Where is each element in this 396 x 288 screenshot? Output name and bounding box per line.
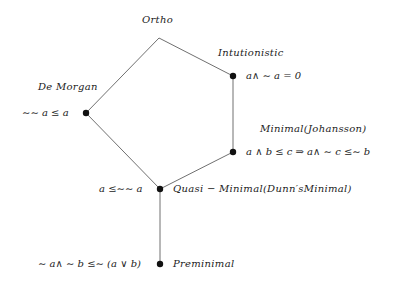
node-quasi bbox=[157, 186, 163, 192]
label-minimal: Minimal(Johansson) bbox=[260, 123, 367, 135]
label-intuitionistic: Intutionistic bbox=[218, 47, 284, 59]
edge-demorgan-quasi bbox=[86, 113, 160, 189]
node-preminimal bbox=[157, 261, 163, 267]
formula-minimal: a ∧ b ≤ c ⇒ a∧ ∼ c ≤∼ b bbox=[246, 146, 370, 158]
formula-quasi: a ≤∼∼ a bbox=[99, 183, 142, 195]
label-ortho: Ortho bbox=[142, 14, 173, 26]
formula-preminimal: ∼ a∧ ∼ b ≤∼ (a ∨ b) bbox=[38, 258, 141, 270]
node-intuitionistic bbox=[230, 73, 236, 79]
label-demorgan: De Morgan bbox=[38, 81, 98, 93]
edge-ortho-demorgan bbox=[86, 38, 159, 113]
lattice-edges bbox=[0, 0, 396, 288]
formula-demorgan: ∼∼ a ≤ a bbox=[22, 107, 69, 119]
node-minimal bbox=[230, 149, 236, 155]
label-quasi: Quasi − Minimal(Dunn′sMinimal) bbox=[173, 183, 352, 195]
formula-intuitionistic: a∧ ∼ a = 0 bbox=[246, 70, 301, 82]
node-demorgan bbox=[83, 110, 89, 116]
label-preminimal: Preminimal bbox=[173, 258, 234, 270]
